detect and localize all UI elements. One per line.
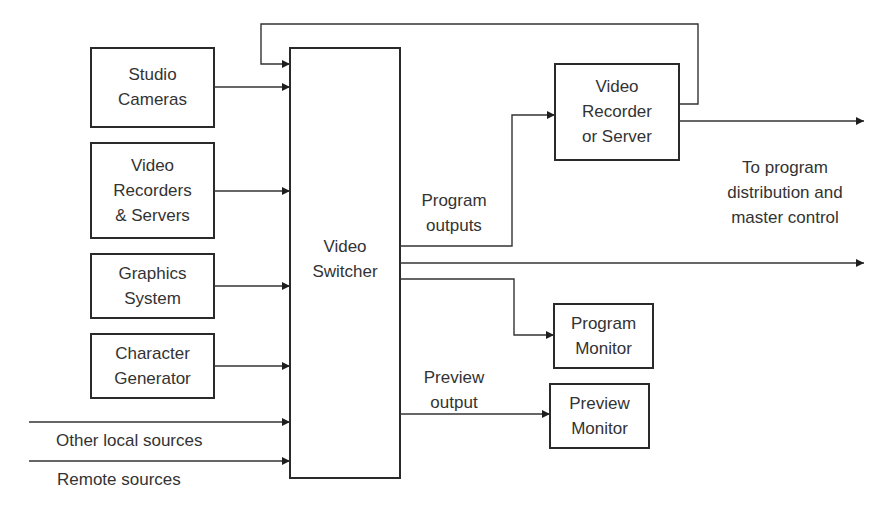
label-video-recorders: Video Recorders & Servers xyxy=(91,153,214,228)
label-video-recorder-server: Video Recorder or Server xyxy=(555,74,679,149)
arrow-to-program-monitor xyxy=(400,279,554,335)
label-program-outputs: Program outputs xyxy=(404,188,504,238)
label-other-local-sources: Other local sources xyxy=(56,428,276,453)
label-program-monitor: Program Monitor xyxy=(554,311,653,361)
label-video-switcher: Video Switcher xyxy=(290,234,400,284)
label-preview-monitor: Preview Monitor xyxy=(550,391,649,441)
label-distribution: To program distribution and master contr… xyxy=(700,155,870,230)
label-remote-sources: Remote sources xyxy=(57,467,277,492)
label-preview-output: Preview output xyxy=(404,365,504,415)
label-studio-cameras: Studio Cameras xyxy=(91,62,214,112)
diagram-canvas: Studio Cameras Video Recorders & Servers… xyxy=(0,0,886,515)
label-character-generator: Character Generator xyxy=(91,341,214,391)
label-graphics-system: Graphics System xyxy=(91,261,214,311)
